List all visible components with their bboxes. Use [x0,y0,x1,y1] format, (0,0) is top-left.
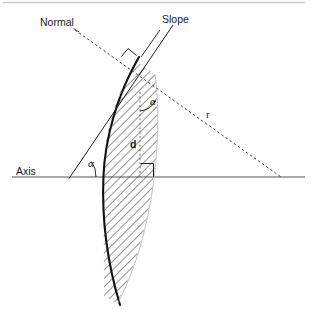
label-alpha-lower: α [88,157,94,169]
optics-diagram-figure: Normal Slope Axis α α r d [0,0,319,331]
slope-label-leader [141,30,160,57]
label-axis: Axis [16,165,36,177]
label-slope: Slope [162,13,189,25]
label-radius: r [206,108,210,120]
mirror-hatched-body [90,50,200,320]
label-alpha-upper: α [150,95,156,107]
label-normal: Normal [40,16,74,28]
label-distance: d [130,138,136,150]
right-angle-marker-tangent [122,49,137,57]
diagram-canvas: Normal Slope Axis α α r d [0,0,319,331]
